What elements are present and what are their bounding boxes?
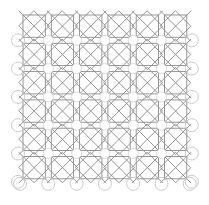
junction-hole bbox=[72, 64, 82, 74]
edge-circle-bottom bbox=[70, 177, 83, 190]
junction-hole bbox=[128, 149, 138, 159]
junction-hole bbox=[157, 149, 167, 159]
edge-circle-right bbox=[185, 119, 198, 132]
junction-hole bbox=[43, 92, 53, 102]
junction-hole bbox=[43, 35, 53, 45]
lattice-pattern bbox=[0, 0, 209, 205]
junction-hole bbox=[128, 92, 138, 102]
junction-hole bbox=[72, 120, 82, 130]
junction-hole bbox=[72, 35, 82, 45]
edge-circle-bottom bbox=[98, 177, 111, 190]
junction-hole bbox=[128, 35, 138, 45]
junction-hole bbox=[43, 120, 53, 130]
junction-hole bbox=[157, 35, 167, 45]
junction-hole bbox=[157, 64, 167, 74]
junction-hole bbox=[43, 64, 53, 74]
junction-hole bbox=[128, 64, 138, 74]
edge-circle-left bbox=[12, 90, 25, 103]
edge-circle-bottom bbox=[127, 177, 140, 190]
junction-hole bbox=[128, 120, 138, 130]
junction-hole bbox=[72, 149, 82, 159]
junction-hole bbox=[100, 64, 110, 74]
junction-hole bbox=[100, 92, 110, 102]
edge-circle-right bbox=[185, 90, 198, 103]
edge-circle-right bbox=[185, 34, 198, 47]
junction-hole bbox=[43, 149, 53, 159]
junction-hole bbox=[72, 92, 82, 102]
edge-circle-left bbox=[12, 147, 25, 160]
edge-circle-right bbox=[185, 147, 198, 160]
edge-circle-right bbox=[185, 62, 198, 75]
junction-hole bbox=[157, 120, 167, 130]
edge-circle-left bbox=[12, 62, 25, 75]
junction-hole bbox=[100, 120, 110, 130]
junction-hole bbox=[100, 149, 110, 159]
edge-circle-bottom bbox=[155, 177, 168, 190]
edge-circle-left bbox=[12, 34, 25, 47]
junction-hole bbox=[157, 92, 167, 102]
edge-circle-left bbox=[12, 119, 25, 132]
junction-hole bbox=[100, 35, 110, 45]
edge-circle-bottom bbox=[42, 177, 55, 190]
